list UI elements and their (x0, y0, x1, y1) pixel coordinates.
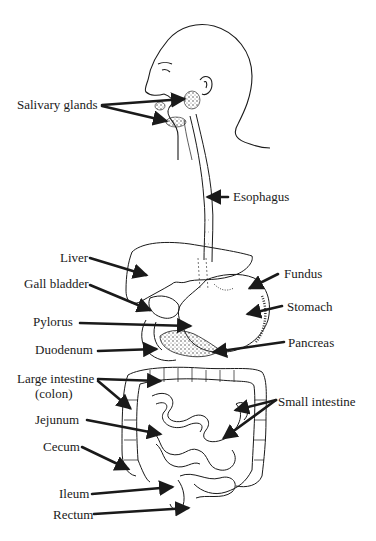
label-cecum: Cecum (43, 440, 80, 454)
label-duodenum: Duodenum (35, 343, 93, 357)
label-gall-bladder: Gall bladder (24, 277, 89, 291)
arrow-large-intestine-transverse (98, 379, 160, 381)
arrow-gallbladder (90, 285, 150, 310)
label-jejunum: Jejunum (35, 413, 79, 427)
arrow-rectum (94, 508, 188, 514)
label-colon: (colon) (35, 387, 73, 401)
label-large-intestine: Large intestine (17, 372, 94, 386)
head-outline (145, 25, 270, 160)
label-fundus: Fundus (284, 267, 322, 281)
arrow-fundus (250, 274, 278, 288)
salivary-glands (155, 91, 200, 127)
label-ileum: Ileum (59, 487, 89, 501)
label-pancreas: Pancreas (288, 336, 334, 350)
pancreas (160, 331, 220, 357)
large-intestine (122, 367, 266, 486)
small-intestine (150, 393, 248, 498)
label-stomach: Stomach (287, 300, 333, 314)
arrow-ileum (92, 487, 172, 494)
label-small-intestine: Small intestine (278, 395, 356, 409)
label-rectum: Rectum (53, 508, 93, 522)
arrow-stomach (248, 306, 282, 314)
label-salivary-glands: Salivary glands (17, 98, 98, 112)
arrow-cecum (82, 447, 128, 469)
label-liver: Liver (60, 251, 88, 265)
arrow-pylorus (80, 323, 190, 326)
arrow-pancreas (214, 342, 284, 352)
liver (126, 242, 252, 303)
arrow-liver (90, 258, 146, 275)
cecum-rectum (138, 460, 252, 510)
label-pylorus: Pylorus (33, 315, 73, 329)
esophagus (184, 114, 213, 262)
arrow-jejunum (87, 420, 160, 434)
digestive-system-diagram: Salivary glands Esophagus Liver Gall bla… (0, 0, 376, 541)
label-esophagus: Esophagus (233, 190, 289, 204)
